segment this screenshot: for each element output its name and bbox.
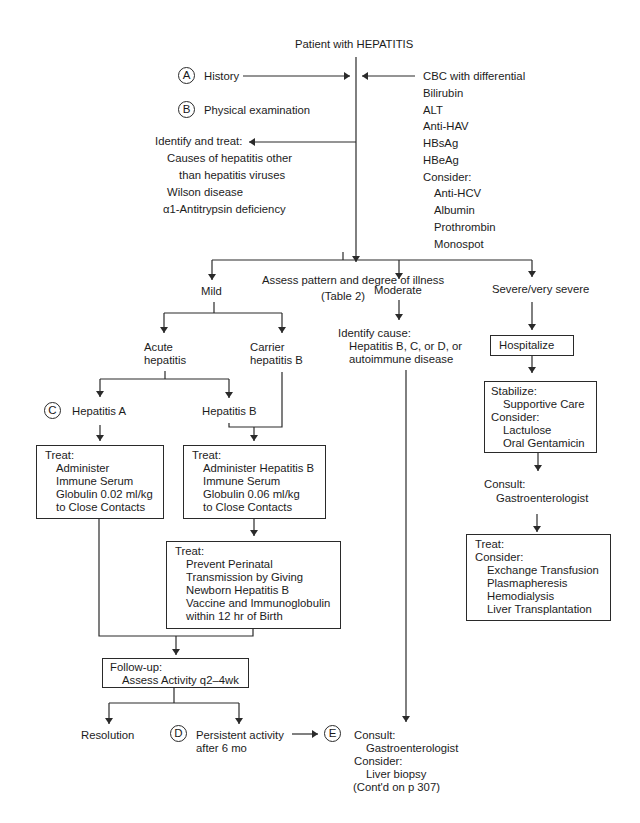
carrier-hepatitis-line1: Carrier bbox=[250, 341, 285, 355]
hepatitis-a-treat-box: Treat: Administer Immune Serum Globulin … bbox=[36, 445, 164, 519]
branch-severe: Severe/very severe bbox=[492, 283, 589, 297]
lab-consider-item: Monospot bbox=[423, 238, 525, 252]
hepatitis-a-label: Hepatitis A bbox=[72, 405, 126, 419]
lab-consider-item: Anti-HCV bbox=[423, 187, 525, 201]
lab-item: Anti-HAV bbox=[423, 120, 525, 134]
title-patient-with-hepatitis: Patient with HEPATITIS bbox=[295, 38, 413, 52]
treat-line: Immune Serum bbox=[203, 475, 280, 489]
treat-line: to Close Contacts bbox=[56, 501, 145, 515]
treat-line: Administer bbox=[56, 462, 109, 476]
assess-line2: (Table 2) bbox=[321, 290, 365, 304]
perinatal-treat-box: Treat: Prevent Perinatal Transmission by… bbox=[166, 541, 341, 629]
treat-line: Newborn Hepatitis B bbox=[186, 584, 289, 598]
severe-treat-consider-heading: Consider: bbox=[475, 551, 523, 565]
stabilize-consider-item: Lactulose bbox=[503, 424, 551, 438]
identify-item: Wilson disease bbox=[167, 186, 243, 200]
stabilize-heading: Stabilize: bbox=[491, 385, 537, 399]
severe-consult-line: Gastroenterologist bbox=[496, 492, 588, 506]
treat-line: Globulin 0.06 ml/kg bbox=[203, 488, 300, 502]
treat-line: within 12 hr of Birth bbox=[186, 610, 283, 624]
treat-line: Prevent Perinatal bbox=[186, 558, 273, 572]
persistent-line1: Persistent activity bbox=[196, 729, 284, 743]
lab-item: CBC with differential bbox=[423, 70, 525, 84]
treat-line: Globulin 0.02 ml/kg bbox=[56, 488, 153, 502]
branch-mild: Mild bbox=[201, 285, 222, 299]
lab-consider-item: Albumin bbox=[423, 204, 525, 218]
treat-line: Vaccine and Immunoglobulin bbox=[186, 597, 330, 611]
lab-consider-item: Prothrombin bbox=[423, 221, 525, 235]
followup-box: Follow-up: Assess Activity q2–4wk bbox=[102, 658, 249, 688]
severe-treat-item: Plasmapheresis bbox=[487, 577, 567, 591]
identify-item: Causes of hepatitis other bbox=[167, 152, 292, 166]
stabilize-consider-heading: Consider: bbox=[491, 411, 539, 425]
lab-item: Bilirubin bbox=[423, 87, 525, 101]
severe-treat-heading: Treat: bbox=[475, 538, 504, 552]
lab-item: HBsAg bbox=[423, 137, 525, 151]
severe-consult-heading: Consult: bbox=[484, 478, 525, 492]
treat-line: Administer Hepatitis B bbox=[203, 462, 314, 476]
treat-line: to Close Contacts bbox=[203, 501, 292, 515]
severe-treat-item: Liver Transplantation bbox=[487, 603, 592, 617]
final-consider-heading: Consider: bbox=[354, 755, 402, 769]
identify-item: α1-Antitrypsin deficiency bbox=[163, 203, 286, 217]
marker-a: A bbox=[178, 67, 195, 84]
resolution-label: Resolution bbox=[81, 729, 134, 743]
marker-c: C bbox=[44, 402, 61, 419]
severe-treat-box: Treat: Consider: Exchange Transfusion Pl… bbox=[466, 534, 611, 621]
marker-d: D bbox=[170, 725, 187, 742]
moderate-identify-heading: Identify cause: bbox=[338, 327, 411, 341]
identify-item: than hepatitis viruses bbox=[179, 169, 285, 183]
step-history: History bbox=[204, 70, 239, 84]
moderate-identify-line: autoimmune disease bbox=[349, 353, 453, 367]
followup-line: Assess Activity q2–4wk bbox=[122, 674, 239, 688]
step-physical-examination: Physical examination bbox=[204, 104, 310, 118]
treat-heading: Treat: bbox=[192, 449, 221, 463]
severe-treat-item: Hemodialysis bbox=[487, 590, 554, 604]
severe-treat-item: Exchange Transfusion bbox=[487, 564, 599, 578]
hepatitis-b-label: Hepatitis B bbox=[202, 405, 257, 419]
treat-heading: Treat: bbox=[45, 449, 74, 463]
final-consider-line: Liver biopsy bbox=[366, 768, 426, 782]
identify-and-treat-heading: Identify and treat: bbox=[155, 135, 242, 149]
lab-item: ALT bbox=[423, 104, 525, 118]
treat-heading: Treat: bbox=[175, 545, 204, 559]
persistent-line2: after 6 mo bbox=[196, 742, 247, 756]
treat-line: Transmission by Giving bbox=[186, 571, 303, 585]
acute-hepatitis-line1: Acute bbox=[144, 341, 173, 355]
acute-hepatitis-line2: hepatitis bbox=[144, 354, 186, 368]
carrier-hepatitis-line2: hepatitis B bbox=[250, 354, 303, 368]
branch-moderate: Moderate bbox=[374, 284, 422, 298]
final-continued-note: (Cont'd on p 307) bbox=[353, 781, 440, 795]
hepatitis-b-treat-box: Treat: Administer Hepatitis B Immune Ser… bbox=[183, 445, 326, 519]
final-consult-heading: Consult: bbox=[354, 729, 395, 743]
moderate-identify-line: Hepatitis B, C, or D, or bbox=[349, 340, 462, 354]
followup-heading: Follow-up: bbox=[110, 661, 162, 675]
treat-line: Immune Serum bbox=[56, 475, 133, 489]
stabilize-box: Stabilize: Supportive Care Consider: Lac… bbox=[484, 381, 597, 453]
hospitalize-box: Hospitalize bbox=[490, 335, 574, 356]
lab-item: HBeAg bbox=[423, 154, 525, 168]
stabilize-line: Supportive Care bbox=[503, 398, 585, 412]
marker-b: B bbox=[178, 101, 195, 118]
marker-e: E bbox=[324, 725, 341, 742]
labs-block: CBC with differential Bilirubin ALT Anti… bbox=[423, 70, 525, 251]
hospitalize-label: Hospitalize bbox=[499, 339, 554, 353]
final-consult-line: Gastroenterologist bbox=[366, 742, 458, 756]
stabilize-consider-item: Oral Gentamicin bbox=[503, 437, 585, 451]
labs-consider-heading: Consider: bbox=[423, 171, 525, 185]
